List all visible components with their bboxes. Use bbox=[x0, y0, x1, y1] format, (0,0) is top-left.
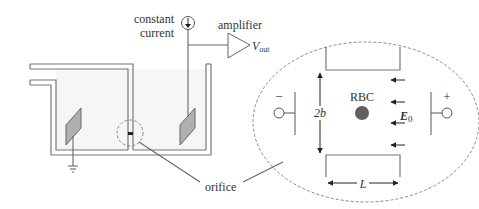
magnified-orifice-view: 2b L RBC E0 − + bbox=[253, 42, 479, 202]
coulter-counter-diagram: constant current amplifier Vout orifice … bbox=[0, 0, 479, 209]
negative-electrode: − bbox=[274, 89, 295, 135]
magnify-leader-line bbox=[243, 162, 283, 182]
amplifier-label: amplifier bbox=[218, 18, 262, 32]
two-b-label: 2b bbox=[314, 106, 326, 120]
rbc-particle bbox=[355, 106, 369, 120]
orifice-marker bbox=[128, 132, 133, 135]
e0-label: E0 bbox=[399, 109, 413, 124]
ground-icon bbox=[68, 166, 78, 172]
channel-top-wall bbox=[326, 47, 400, 70]
channel-bottom-wall bbox=[326, 155, 400, 177]
rbc-label: RBC bbox=[350, 90, 374, 104]
orifice-label: orifice bbox=[205, 180, 236, 194]
current-source-icon bbox=[182, 17, 195, 30]
length-label: L bbox=[359, 177, 367, 191]
plus-sign: + bbox=[443, 89, 450, 104]
constant-label: constant bbox=[134, 12, 175, 26]
vout-label: Vout bbox=[252, 39, 270, 54]
amplifier-icon bbox=[228, 33, 250, 58]
minus-sign: − bbox=[275, 89, 282, 104]
current-label: current bbox=[140, 26, 175, 40]
negative-terminal-icon bbox=[274, 108, 284, 118]
positive-terminal-icon bbox=[442, 108, 452, 118]
positive-electrode: + bbox=[431, 89, 452, 135]
